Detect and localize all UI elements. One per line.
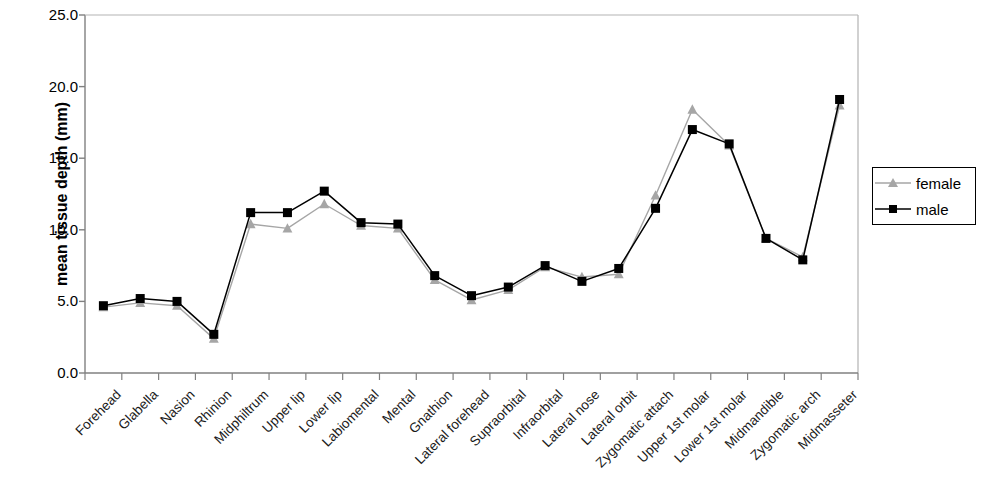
tissue-depth-line-chart: mean tissue depth (mm) 0.05.010.015.020.… (0, 0, 985, 504)
x-axis-tick-labels: ForeheadGlabellaNasionRhinionMidphiltrum… (0, 0, 985, 504)
legend-marker-square-icon (873, 200, 913, 218)
chart-legend: female male (872, 167, 976, 225)
legend-marker-triangle-icon (873, 174, 913, 192)
legend-label-female: female (913, 176, 961, 191)
legend-label-male: male (913, 202, 949, 217)
legend-entry-female: female (873, 171, 975, 195)
legend-entry-male: male (873, 197, 975, 221)
